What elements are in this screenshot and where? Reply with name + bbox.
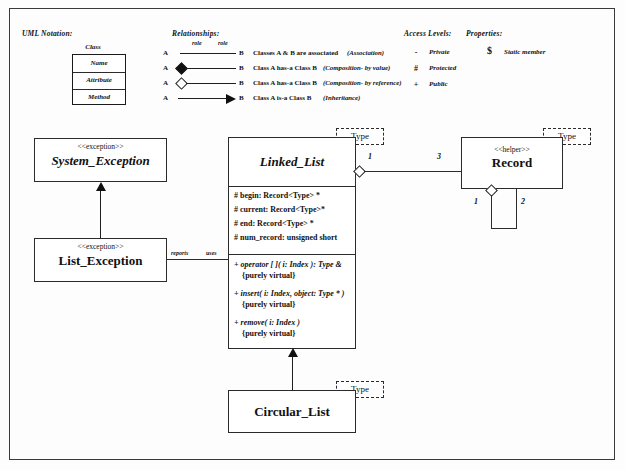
linked-list-divider-methods xyxy=(229,254,355,255)
uml-diagram-canvas: UML Notation: Class Name Attribute Metho… xyxy=(0,0,625,470)
linked-list-method-remove-constraint: {purely virtual} xyxy=(242,330,296,339)
uml-notation-title: UML Notation: xyxy=(22,30,72,38)
legend-rel-1-line xyxy=(180,53,236,54)
record-self-line-right xyxy=(516,189,517,228)
static-member-label: Static member xyxy=(504,49,545,56)
linked-list-attribute-end: # end: Record<Type> * xyxy=(234,220,314,229)
access-protected-symbol: # xyxy=(411,65,421,73)
legend-rel-2-line xyxy=(186,68,236,69)
solid-arrow-icon xyxy=(226,94,236,104)
linked-list-method-insert-constraint: {purely virtual} xyxy=(242,301,296,310)
linked-list-method-operator-constraint: {purely virtual} xyxy=(242,272,296,281)
circular-list-name: Circular_List xyxy=(229,405,355,419)
association-label-uses: uses xyxy=(206,250,217,256)
legend-rel-1-to: B xyxy=(239,50,244,57)
linked-list-attribute-num-record: # num_record: unsigned short xyxy=(234,234,337,243)
linked-list-method-operator-signature: + operator [ ]( i: Index ): Type & xyxy=(234,261,342,270)
access-private-symbol: - xyxy=(411,49,421,57)
legend-rel-3-description: Class A has-a Class B xyxy=(253,80,317,87)
legend-rel-3-from: A xyxy=(163,80,168,87)
access-public-label: Public xyxy=(429,81,448,88)
multiplicity-record-self-left: 1 xyxy=(474,197,478,206)
legend-rel-2-description: Class A has-a Class B xyxy=(253,65,317,72)
multiplicity-record-side: 3 xyxy=(437,152,441,161)
record-stereotype: <<helper>> xyxy=(462,146,562,154)
inheritance-arrowhead-system-exception xyxy=(96,182,106,191)
list-exception-name: List_Exception xyxy=(35,254,166,268)
legend-rel-4-from: A xyxy=(163,95,168,102)
aggregation-line-linkedlist-record xyxy=(364,171,461,172)
legend-rel-3-to: B xyxy=(239,80,244,87)
record-name: Record xyxy=(462,156,562,170)
legend-rel-3-kind: (Composition- by reference) xyxy=(323,80,402,87)
linked-list-method-remove-signature: + remove( i: Index ) xyxy=(234,319,300,328)
class-list-exception[interactable]: <<exception>> List_Exception xyxy=(34,238,167,282)
legend-rel-2-from: A xyxy=(163,65,168,72)
legend-rel-1-description: Classes A & B are associated xyxy=(253,50,338,57)
class-circular-list[interactable]: Circular_List xyxy=(228,390,356,433)
class-system-exception[interactable]: <<exception>> System_Exception xyxy=(34,138,167,182)
system-exception-name: System_Exception xyxy=(35,154,166,168)
legend-rel-4-description: Class A is-a Class B xyxy=(253,95,311,102)
multiplicity-record-self-right: 2 xyxy=(521,197,525,206)
access-private-label: Private xyxy=(429,49,450,56)
association-line-exception-linkedlist xyxy=(167,259,228,260)
record-self-line-bottom xyxy=(491,228,517,229)
inheritance-arrowhead-linked-list xyxy=(288,348,298,357)
legend-divider-2 xyxy=(73,89,125,90)
legend-rel-4-line xyxy=(178,98,226,99)
inheritance-line-list-exception xyxy=(100,191,101,238)
linked-list-name: Linked_List xyxy=(229,155,355,169)
legend-class-box: Name Attribute Method xyxy=(72,54,126,105)
legend-rel-1-kind: (Association) xyxy=(347,50,384,57)
class-record[interactable]: <<helper>> Record xyxy=(461,137,563,189)
legend-rel-4-to: B xyxy=(239,95,244,102)
legend-class-row-attribute: Attribute xyxy=(73,77,125,84)
relationships-title: Relationships: xyxy=(172,30,219,38)
legend-divider-1 xyxy=(73,72,125,73)
properties-title: Properties: xyxy=(466,30,502,38)
legend-rel-4-kind: (Inheritance) xyxy=(323,95,360,102)
linked-list-attribute-begin: # begin: Record<Type> * xyxy=(234,192,320,201)
system-exception-stereotype: <<exception>> xyxy=(35,143,166,151)
legend-rel-1-from: A xyxy=(163,50,168,57)
legend-rel-3-line xyxy=(186,83,236,84)
legend-rel-2-to: B xyxy=(239,65,244,72)
multiplicity-linked-list-side: 1 xyxy=(368,152,372,161)
static-member-symbol: $ xyxy=(487,46,492,56)
legend-rel-1-role-left: role xyxy=(192,40,202,46)
list-exception-stereotype: <<exception>> xyxy=(35,243,166,251)
linked-list-divider-attributes xyxy=(229,186,355,187)
access-public-symbol: + xyxy=(411,81,421,89)
legend-rel-1-role-right: role xyxy=(218,40,228,46)
record-self-line-left xyxy=(491,195,492,228)
access-levels-title: Access Levels: xyxy=(404,30,452,38)
linked-list-attribute-current: # current: Record<Type>* xyxy=(234,206,325,215)
association-label-reports: reports xyxy=(171,250,188,256)
linked-list-method-insert-signature: + insert( i: Index, object: Type * ) xyxy=(234,290,344,299)
access-protected-label: Protected xyxy=(429,65,456,72)
legend-class-row-name: Name xyxy=(73,60,125,67)
legend-class-caption: Class xyxy=(60,44,126,51)
legend-class-row-method: Method xyxy=(73,94,125,101)
legend-rel-2-kind: (Composition- by value) xyxy=(323,65,390,72)
